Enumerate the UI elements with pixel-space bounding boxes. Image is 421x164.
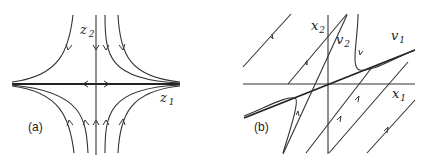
trajectory-curve	[12, 15, 73, 82]
trajectory-curve	[367, 100, 415, 153]
trajectory-curve	[306, 66, 373, 153]
x1-label: x1	[392, 86, 406, 103]
arrow-up-right-icon	[337, 116, 341, 122]
panel-b-label: (b)	[254, 120, 269, 134]
trajectory-curve	[12, 86, 74, 153]
z1-label: z1	[159, 90, 175, 107]
trajectory-curve	[105, 85, 180, 153]
arrow-up-right-icon	[355, 96, 359, 102]
arrow-down-icon	[359, 50, 363, 55]
trajectory-curve	[105, 15, 180, 83]
arrow-up-icon	[296, 111, 299, 116]
trajectory-curve	[12, 85, 88, 153]
v2-label: v2	[336, 32, 350, 49]
trajectory-curve	[244, 98, 296, 153]
panel-a-label: (a)	[28, 120, 43, 134]
z2-label: z2	[79, 22, 95, 39]
panel-b: x2 v2 v1 x1 (b)	[243, 14, 415, 154]
phase-portrait-figure: z2 z1 (a) x2 v2 v1 x1	[0, 0, 421, 164]
trajectory-curve	[243, 14, 291, 67]
panel-a: z2 z1 (a)	[12, 15, 180, 155]
x2-label: x2	[311, 18, 325, 35]
v1-label: v1	[391, 28, 405, 45]
